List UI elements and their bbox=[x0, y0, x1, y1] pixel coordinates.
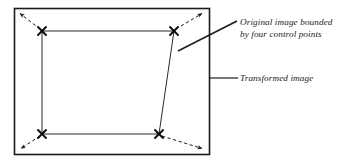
original-image-label-line1: Original image bounded bbox=[240, 17, 333, 27]
figure-canvas: Original image bounded by four control p… bbox=[0, 0, 345, 160]
original-image-quad bbox=[42, 31, 174, 134]
original-image-label-line2: by four control points bbox=[240, 29, 322, 39]
original-image-leader-line bbox=[178, 21, 237, 51]
control-point-group bbox=[38, 27, 178, 138]
displacement-arrow-group bbox=[20, 14, 202, 149]
top-right-arrow bbox=[176, 14, 202, 30]
bottom-right-arrow bbox=[162, 136, 202, 149]
transformation-diagram: Original image bounded by four control p… bbox=[0, 0, 345, 160]
transformed-image-label: Transformed image bbox=[240, 73, 313, 83]
top-left-arrow bbox=[20, 14, 40, 30]
